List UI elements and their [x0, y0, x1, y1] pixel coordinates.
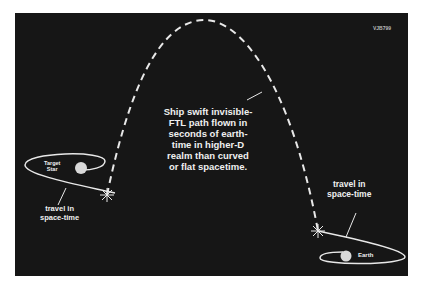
target-star-label: Target Star [44, 160, 60, 173]
left-travel-label: travel in space-time [40, 205, 79, 222]
target-star-orbit [25, 154, 115, 193]
target-label-line: Star [44, 166, 60, 172]
jump-point-left-icon [100, 188, 114, 202]
caption-line: realm than curved [148, 151, 268, 162]
main-caption: Ship swift invisible- FTL path flown in … [148, 107, 268, 173]
figure-code: VJB799 [373, 26, 391, 32]
earth-label: Earth [358, 252, 373, 259]
right-travel-label: travel in space-time [327, 180, 371, 200]
pointer-line-right [346, 213, 356, 237]
earth-icon [341, 251, 352, 262]
pointer-line-left [58, 188, 66, 205]
target-star-icon [75, 162, 87, 174]
pointer-line-caption [247, 92, 262, 100]
caption-line: or flat spacetime. [148, 162, 268, 173]
jump-point-right-icon [311, 224, 325, 238]
left-travel-line: space-time [40, 214, 79, 223]
right-travel-line: space-time [327, 190, 371, 200]
